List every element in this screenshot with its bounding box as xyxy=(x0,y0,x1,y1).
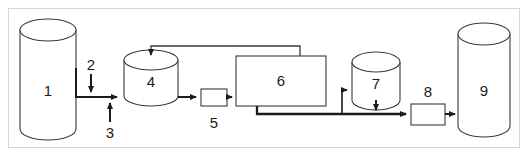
inlet-3-label: 3 xyxy=(106,124,114,141)
vessel-1: 1 xyxy=(20,19,76,140)
unit-6: 6 xyxy=(236,56,326,106)
flow-diagram-canvas: 1 4 5 6 7 8 xyxy=(0,0,528,156)
vessel-1-label: 1 xyxy=(44,82,52,99)
process-flow-diagram: 1 4 5 6 7 8 xyxy=(0,0,528,156)
vessel-7-label: 7 xyxy=(372,75,380,92)
unit-5-label: 5 xyxy=(210,114,218,131)
vessel-4-label: 4 xyxy=(147,73,155,90)
vessel-9: 9 xyxy=(458,23,510,137)
vessel-4: 4 xyxy=(124,50,178,106)
unit-8-label: 8 xyxy=(424,83,432,100)
vessel-9-label: 9 xyxy=(480,82,488,99)
unit-6-label: 6 xyxy=(277,72,285,89)
inlet-2-label: 2 xyxy=(87,56,95,73)
